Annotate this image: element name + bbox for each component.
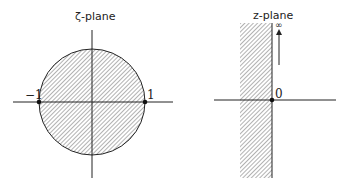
zeta-plane-title: ζ-plane (75, 10, 116, 23)
label-neg-one: −1 (25, 88, 43, 102)
label-infinity: ∞ (275, 20, 283, 30)
point-origin (270, 98, 275, 103)
zeta-plane-panel: ζ-plane −1 1 (13, 10, 173, 178)
conformal-map-diagram: ζ-plane −1 1 z-plane 0 ∞ (0, 0, 345, 188)
z-plane-panel: z-plane 0 ∞ (214, 9, 336, 178)
label-one: 1 (147, 88, 155, 102)
label-origin: 0 (275, 87, 283, 101)
z-plane-title: z-plane (253, 9, 293, 22)
